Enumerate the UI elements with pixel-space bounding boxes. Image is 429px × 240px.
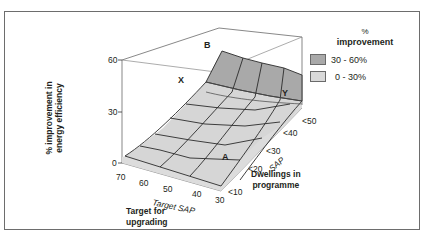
- point-x-label: X: [178, 75, 184, 85]
- legend-title: % improvement: [310, 26, 420, 48]
- legend-item-low: 0 - 30%: [310, 71, 420, 82]
- x-axis-title: Target for upgrading: [126, 206, 168, 228]
- x-tick-50: 50: [163, 184, 173, 194]
- z-axis-title: Dwellings in programme: [251, 169, 301, 191]
- y-axis-title: % improvement in energy efficiency: [44, 81, 64, 154]
- z-tick-40: <40: [283, 128, 298, 138]
- x-tick-40: 40: [192, 189, 202, 199]
- point-y-label: Y: [282, 88, 288, 98]
- y-tick-0: 0: [112, 158, 117, 168]
- x-tick-30: 30: [215, 195, 225, 205]
- z-tick-50: <50: [302, 116, 317, 126]
- y-tick-30: 30: [108, 107, 118, 117]
- legend-item-high: 30 - 60%: [310, 54, 420, 65]
- legend-swatch-high: [310, 54, 326, 65]
- x-tick-70: 70: [116, 172, 126, 182]
- x-tick-60: 60: [139, 178, 149, 188]
- z-tick-10: <10: [228, 187, 243, 197]
- point-b-label: B: [204, 40, 211, 50]
- z-tick-30: <30: [266, 146, 281, 156]
- point-a-label: A: [222, 152, 229, 162]
- legend: % improvement 30 - 60% 0 - 30%: [310, 26, 420, 82]
- legend-swatch-low: [310, 71, 326, 82]
- y-tick-60: 60: [108, 55, 118, 65]
